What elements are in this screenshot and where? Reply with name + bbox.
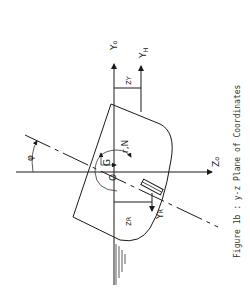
rudder	[141, 179, 163, 195]
y-z-plane-diagram: Yo YH zY Zo O G r,N φ zR YR Figure 1b : …	[0, 0, 250, 305]
label-zr: zR	[123, 216, 133, 226]
svg-text:zY: zY	[123, 76, 133, 85]
svg-text:YH: YH	[138, 48, 150, 60]
label-yo: Yo	[109, 41, 119, 52]
label-zy: zY	[123, 76, 133, 85]
label-g: G	[102, 159, 112, 166]
label-yh: YH	[138, 48, 150, 60]
svg-text:Yo: Yo	[109, 41, 119, 52]
label-origin: O	[108, 174, 118, 181]
svg-text:YR: YR	[155, 209, 165, 221]
figure-caption: Figure 1b : y-z Plane of Coordinates	[233, 84, 242, 258]
svg-text:zR: zR	[123, 216, 133, 226]
label-yr: YR	[155, 209, 165, 221]
label-yaw: r,N	[120, 140, 130, 153]
svg-text:Figure 1b : y-z Plane of Coord: Figure 1b : y-z Plane of Coordinates	[233, 84, 242, 258]
yaw-rotation-arc	[95, 150, 131, 191]
svg-text:O: O	[108, 174, 118, 181]
svg-text:r,N: r,N	[120, 140, 130, 153]
svg-text:G: G	[102, 159, 112, 166]
label-zo: Zo	[211, 157, 221, 167]
label-phi: φ	[25, 155, 35, 161]
svg-text:φ: φ	[25, 155, 35, 161]
svg-text:Zo: Zo	[211, 157, 221, 167]
waterline-hatching	[116, 244, 125, 285]
